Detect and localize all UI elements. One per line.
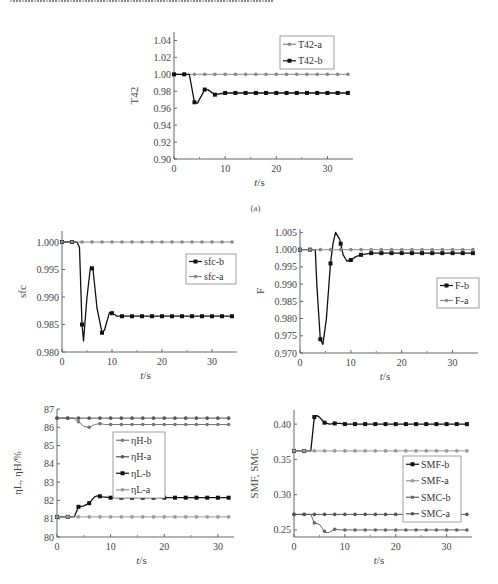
- x-tick-label: 20: [391, 541, 401, 552]
- x-tick-label: 20: [397, 357, 407, 368]
- legend-entry: SMF-a: [421, 475, 449, 486]
- figure-canvas: 01020300.900.920.940.960.981.001.021.04t…: [0, 0, 498, 584]
- x-tick-label: 10: [340, 541, 350, 552]
- legend: ηH-bηH-aηL-bηL-a: [113, 432, 165, 498]
- x-tick-label: 20: [157, 356, 167, 367]
- x-tick-label: 0: [60, 356, 65, 367]
- y-tick-label: 1.04: [154, 35, 172, 46]
- x-tick-label: 30: [322, 163, 332, 174]
- series--L-a: [55, 515, 230, 519]
- y-tick-label: 86: [44, 422, 54, 433]
- x-tick-label: 30: [207, 356, 217, 367]
- y-tick-label: 0.995: [37, 264, 60, 275]
- x-tick-label: 30: [442, 541, 452, 552]
- y-tick-label: 0.985: [275, 296, 298, 307]
- y-axis-label: ηL, ηH/%: [11, 451, 23, 495]
- chart-F: 01020300.9700.9750.9800.9850.9900.9951.0…: [254, 227, 479, 382]
- series-F-a: [298, 248, 475, 252]
- x-tick-label: 30: [448, 357, 458, 368]
- y-tick-label: 0.90: [154, 154, 172, 165]
- y-tick-label: 0.980: [275, 313, 298, 324]
- y-tick-label: 84: [44, 458, 54, 469]
- y-axis-label: SMF, SMC: [248, 449, 260, 499]
- chart-SM: 01020300.250.300.350.40t/sSMF, SMCSMF-bS…: [248, 410, 472, 566]
- y-tick-label: 1.02: [154, 52, 172, 63]
- legend: sfc-bsfc-a: [186, 254, 236, 284]
- x-tick-label: 0: [172, 163, 177, 174]
- y-tick-label: 1.000: [37, 237, 60, 248]
- y-tick-label: 85: [44, 440, 54, 451]
- series-SMF-b: [292, 415, 469, 453]
- chart-sfc: 01020300.9800.9850.9900.9951.000t/ssfcsf…: [16, 231, 237, 381]
- cut-off-text-fragment: [10, 0, 273, 2]
- x-tick-label: 30: [213, 541, 223, 552]
- series-SMF-a: [292, 449, 469, 453]
- x-tick-label: 20: [159, 541, 169, 552]
- y-tick-label: 1.005: [275, 227, 298, 238]
- y-tick-label: 0.985: [37, 319, 60, 330]
- legend-entry: ηH-a: [131, 451, 152, 462]
- x-axis-label: t/s: [140, 369, 150, 381]
- legend-entry: sfc-b: [204, 256, 224, 267]
- legend-entry: ηL-b: [131, 468, 151, 479]
- y-tick-label: 0.35: [274, 454, 292, 465]
- y-axis-label: T42: [128, 87, 140, 105]
- y-tick-label: 0.990: [37, 292, 60, 303]
- series-T42-a: [172, 73, 349, 77]
- legend-entry: T42-a: [298, 39, 322, 50]
- y-tick-label: 1.00: [154, 69, 172, 80]
- y-tick-label: 82: [44, 495, 54, 506]
- x-tick-label: 10: [107, 356, 117, 367]
- legend-entry: ηH-b: [131, 435, 152, 446]
- y-tick-label: 0.980: [37, 347, 60, 358]
- x-axis-label: t/s: [254, 176, 264, 188]
- y-tick-label: 87: [44, 404, 54, 415]
- x-tick-label: 10: [106, 541, 116, 552]
- legend: F-bF-a: [437, 278, 479, 308]
- y-tick-label: 83: [44, 477, 54, 488]
- x-axis-label: t/s: [136, 554, 146, 566]
- series-sfc-a: [60, 240, 234, 244]
- y-axis-label: sfc: [16, 285, 28, 298]
- y-axis-label: F: [254, 288, 266, 294]
- y-tick-label: 81: [44, 513, 54, 524]
- x-tick-label: 10: [220, 163, 230, 174]
- chart-eta: 01020308081828384858687t/sηL, ηH/%ηH-bηH…: [11, 404, 234, 567]
- legend-entry: SMC-a: [421, 508, 450, 519]
- y-tick-label: 1.000: [275, 244, 298, 255]
- x-tick-label: 10: [346, 357, 356, 368]
- x-tick-label: 0: [292, 541, 297, 552]
- legend-entry: T42-b: [298, 55, 322, 66]
- y-tick-label: 0.92: [154, 137, 172, 148]
- y-tick-label: 80: [44, 532, 54, 543]
- legend-entry: sfc-a: [204, 271, 224, 282]
- chart-a: 01020300.900.920.940.960.981.001.021.04t…: [128, 32, 353, 213]
- legend: T42-aT42-b: [280, 36, 334, 69]
- y-tick-label: 0.970: [275, 348, 298, 359]
- series--H-a: [55, 416, 230, 420]
- legend-entry: F-b: [455, 280, 469, 291]
- y-tick-label: 0.96: [154, 103, 172, 114]
- legend-entry: SMF-b: [421, 459, 449, 470]
- y-tick-label: 0.94: [154, 120, 172, 131]
- x-axis-label: t/s: [374, 554, 384, 566]
- x-tick-label: 0: [55, 541, 60, 552]
- x-tick-label: 20: [271, 163, 281, 174]
- legend-entry: SMC-b: [421, 492, 450, 503]
- y-tick-label: 0.40: [274, 419, 292, 430]
- legend-entry: ηL-a: [131, 484, 151, 495]
- figure-caption: (a): [251, 203, 261, 213]
- x-axis-label: t/s: [380, 370, 390, 382]
- y-tick-label: 0.990: [275, 279, 298, 290]
- legend: SMF-bSMF-aSMC-bSMC-a: [403, 456, 461, 522]
- y-tick-label: 0.25: [274, 524, 292, 535]
- y-tick-label: 0.98: [154, 86, 172, 97]
- x-tick-label: 0: [298, 357, 303, 368]
- y-tick-label: 0.975: [275, 330, 298, 341]
- series-T42-b: [172, 72, 350, 104]
- y-tick-label: 0.995: [275, 261, 298, 272]
- y-tick-label: 0.30: [274, 489, 292, 500]
- legend-entry: F-a: [455, 295, 469, 306]
